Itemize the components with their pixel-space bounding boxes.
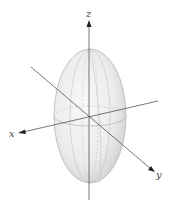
y-axis-label: y (155, 169, 162, 180)
ellipsoid-diagram: z x y (0, 0, 178, 208)
x-axis-label: x (9, 128, 15, 139)
z-axis-label: z (85, 8, 92, 19)
z-axis-arrow-icon (87, 20, 92, 27)
x-axis-arrow-icon (18, 130, 26, 135)
ellipsoid-surface (54, 49, 126, 183)
